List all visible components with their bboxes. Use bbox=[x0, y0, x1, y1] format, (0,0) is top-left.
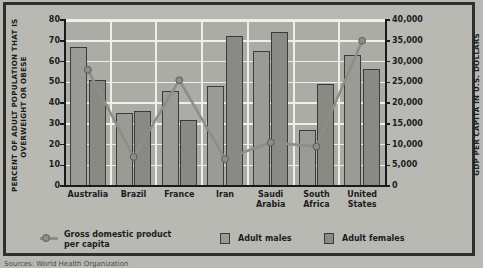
tick-mark bbox=[386, 185, 390, 187]
x-axis bbox=[62, 185, 388, 187]
legend-label-females: Adult females bbox=[342, 234, 405, 244]
category-label: South Africa bbox=[294, 190, 340, 209]
y-tick-left: 50 bbox=[38, 77, 60, 86]
gdp-marker bbox=[176, 77, 183, 84]
category-label: France bbox=[156, 190, 202, 200]
marker-dot-icon bbox=[42, 234, 50, 242]
tick-mark bbox=[60, 165, 64, 167]
gdp-marker bbox=[222, 156, 229, 163]
y-tick-right: 30,000 bbox=[392, 57, 423, 66]
legend-label-males: Adult males bbox=[238, 234, 292, 244]
category-label: Australia bbox=[65, 190, 111, 200]
tick-mark bbox=[60, 185, 64, 187]
y-tick-left: 10 bbox=[38, 160, 60, 169]
y-tick-left: 70 bbox=[38, 36, 60, 45]
y-tick-right: 20,000 bbox=[392, 98, 423, 107]
right-axis-title: GDP PER CAPITA IN U.S. DOLLARS bbox=[472, 20, 481, 190]
source-note: Sources: World Health Organization bbox=[4, 260, 304, 268]
category-label: Brazil bbox=[111, 190, 157, 200]
y-tick-right: 25,000 bbox=[392, 77, 423, 86]
category-label: Saudi Arabia bbox=[248, 190, 294, 209]
tick-mark bbox=[60, 19, 64, 21]
y-tick-right: 0 bbox=[392, 181, 398, 190]
gdp-marker bbox=[359, 37, 366, 44]
tick-mark bbox=[386, 82, 390, 84]
legend-item-males: Adult males bbox=[220, 230, 330, 250]
tick-mark bbox=[60, 144, 64, 146]
y-tick-left: 80 bbox=[38, 15, 60, 24]
category-label: Iran bbox=[202, 190, 248, 200]
y-tick-right: 35,000 bbox=[392, 36, 423, 45]
gdp-marker bbox=[267, 139, 274, 146]
gdp-marker bbox=[313, 143, 320, 150]
tick-mark bbox=[60, 40, 64, 42]
tick-mark bbox=[386, 165, 390, 167]
legend-item-females: Adult females bbox=[324, 230, 444, 250]
chart-figure: PERCENT OF ADULT POPULATION THAT IS OVER… bbox=[0, 0, 483, 268]
gdp-line-series bbox=[65, 20, 385, 186]
tick-mark bbox=[60, 102, 64, 104]
category-label: United States bbox=[339, 190, 385, 209]
gdp-marker bbox=[130, 154, 137, 161]
y-axis-left bbox=[64, 19, 66, 187]
y-tick-right: 5,000 bbox=[392, 160, 417, 169]
y-tick-left: 40 bbox=[38, 98, 60, 107]
gdp-line bbox=[88, 41, 362, 159]
tick-mark bbox=[60, 82, 64, 84]
y-tick-right: 15,000 bbox=[392, 119, 423, 128]
tick-mark bbox=[386, 40, 390, 42]
tick-mark bbox=[386, 61, 390, 63]
legend-item-gdp: Gross domestic product per capita bbox=[40, 230, 240, 250]
tick-mark bbox=[386, 123, 390, 125]
legend-label-gdp: Gross domestic product per capita bbox=[64, 230, 171, 249]
swatch-males-icon bbox=[220, 233, 230, 244]
y-tick-right: 10,000 bbox=[392, 140, 423, 149]
y-tick-left: 30 bbox=[38, 119, 60, 128]
y-tick-left: 60 bbox=[38, 57, 60, 66]
tick-mark bbox=[60, 61, 64, 63]
tick-mark bbox=[386, 19, 390, 21]
plot-area bbox=[65, 20, 385, 186]
swatch-females-icon bbox=[324, 233, 334, 244]
tick-mark bbox=[386, 144, 390, 146]
y-tick-left: 0 bbox=[38, 181, 60, 190]
gdp-marker bbox=[84, 66, 91, 73]
tick-mark bbox=[60, 123, 64, 125]
chart-legend: Gross domestic product per capita Adult … bbox=[40, 230, 440, 252]
y-tick-left: 20 bbox=[38, 140, 60, 149]
tick-mark bbox=[386, 102, 390, 104]
y-tick-right: 40,000 bbox=[392, 15, 423, 24]
left-axis-title: PERCENT OF ADULT POPULATION THAT IS OVER… bbox=[10, 22, 28, 192]
